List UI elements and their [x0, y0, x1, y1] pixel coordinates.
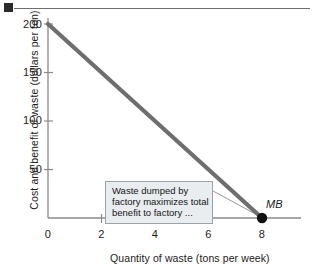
x-axis-title: Quantity of waste (tons per week) [110, 252, 270, 264]
x-tick-label-8: 8 [252, 228, 272, 240]
callout-line-3: benefit to factory ... [112, 208, 207, 219]
waste-dumped-callout: Waste dumped by factory maximizes total … [105, 181, 213, 224]
x-tick-label-0: 0 [38, 228, 58, 240]
x-tick-label-6: 6 [199, 228, 219, 240]
x-tick-label-2: 2 [92, 228, 112, 240]
callout-line-2: factory maximizes total [112, 197, 207, 208]
x-tick-label-4: 4 [145, 228, 165, 240]
y-axis-title: Cost and benefit of waste (dollars per t… [28, 10, 40, 210]
chart-figure: 200 150 100 50 0 2 4 6 8 Cost and benefi… [0, 0, 315, 271]
equilibrium-point [257, 213, 267, 223]
mb-curve-label: MB [266, 198, 283, 210]
